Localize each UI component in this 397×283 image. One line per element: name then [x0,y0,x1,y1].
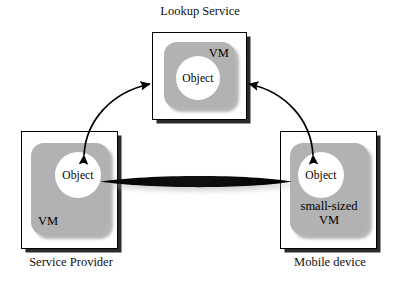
mobile-device-object-label: Object [305,169,336,181]
service-provider-vm-rect: VM Object [31,143,109,235]
service-provider-object-circle: Object [55,152,101,198]
lookup-service-vm-label: VM [209,47,229,61]
diagram-canvas: Lookup Service VM Object VM Object Servi… [0,0,397,283]
mobile-device-caption: Mobile device [280,255,380,270]
mobile-device-vm-rect: small-sized VM Object [290,143,368,235]
mobile-device-vm-label: small-sized VM [290,200,368,227]
lookup-service-vm-rect: VM Object [164,42,235,108]
service-provider-vm-label: VM [38,215,58,229]
service-provider-box: VM Object [21,131,118,249]
service-provider-caption: Service Provider [21,255,121,270]
mobile-device-object-circle: Object [298,152,344,198]
lookup-service-caption: Lookup Service [152,4,248,19]
mobile-device-box: small-sized VM Object [280,131,377,249]
service-provider-object-label: Object [62,169,93,181]
lookup-service-object-circle: Object [176,56,220,100]
lookup-service-object-label: Object [182,72,213,84]
arrow-provider-mobile [100,176,292,187]
lookup-service-box: VM Object [152,32,247,120]
